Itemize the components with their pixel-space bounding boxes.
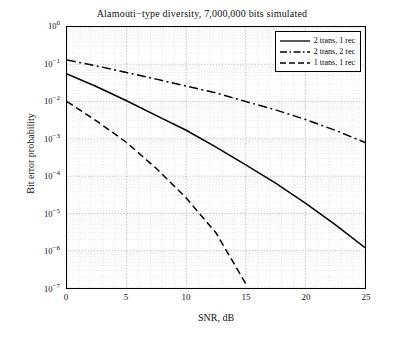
y-tick-label: 100 [20, 19, 60, 31]
legend: 2 trans, 1 rec 2 trans, 2 rec 1 trans, 1… [275, 31, 361, 72]
x-tick-label: 15 [231, 292, 261, 302]
plot-area: 2 trans, 1 rec 2 trans, 2 rec 1 trans, 1… [66, 26, 366, 289]
legend-item-2: 1 trans, 1 rec [280, 57, 355, 68]
legend-line-dashed [280, 59, 310, 67]
x-axis-label: SNR, dB [66, 312, 366, 323]
legend-item-1: 2 trans, 2 rec [280, 46, 355, 57]
legend-label-0: 2 trans, 1 rec [314, 35, 355, 46]
chart-title: Alamouti−type diversity, 7,000,000 bits … [0, 8, 404, 19]
x-tick-label: 25 [351, 292, 381, 302]
figure: Alamouti−type diversity, 7,000,000 bits … [0, 0, 404, 341]
legend-label-2: 1 trans, 1 rec [314, 57, 355, 68]
y-tick-label: 10−5 [20, 207, 60, 219]
legend-label-1: 2 trans, 2 rec [314, 46, 355, 57]
y-tick-label: 10−3 [20, 132, 60, 144]
y-tick-label: 10−2 [20, 94, 60, 106]
y-tick-label: 10−7 [20, 282, 60, 294]
y-tick-label: 10−4 [20, 169, 60, 181]
legend-line-solid [280, 37, 310, 45]
x-tick-label: 5 [111, 292, 141, 302]
y-tick-label: 10−1 [20, 57, 60, 69]
legend-item-0: 2 trans, 1 rec [280, 35, 355, 46]
legend-line-dashdot [280, 48, 310, 56]
x-tick-label: 20 [291, 292, 321, 302]
x-tick-label: 10 [171, 292, 201, 302]
y-tick-label: 10−6 [20, 244, 60, 256]
